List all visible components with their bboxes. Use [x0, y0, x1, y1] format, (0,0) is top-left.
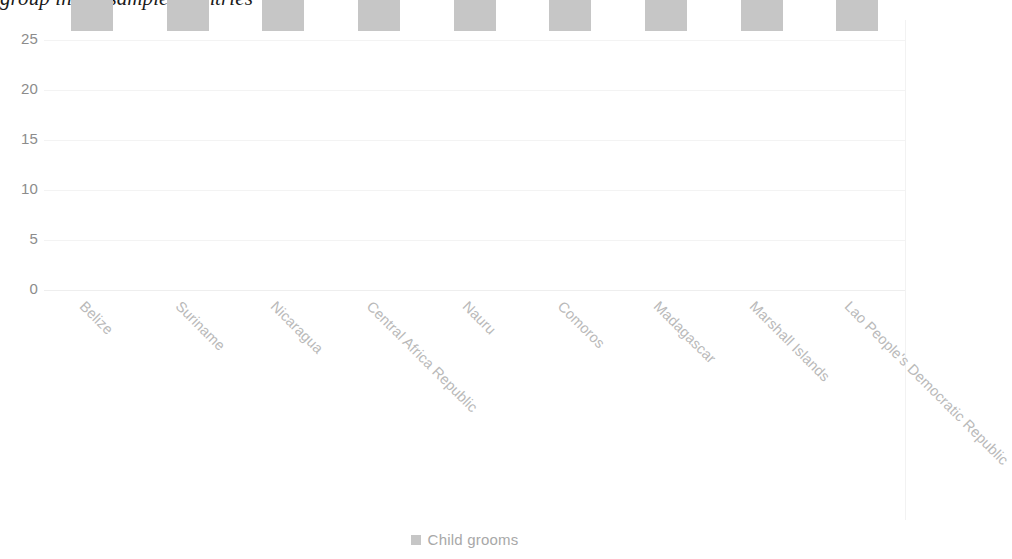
bar-series-child-grooms [0, 0, 929, 300]
bar [741, 0, 783, 31]
x-axis-tick-label: Lao People's Democratic Republic [842, 298, 1012, 468]
chart-legend: Child grooms [0, 527, 929, 551]
legend-swatch-icon [411, 535, 421, 545]
bar [167, 0, 209, 31]
bar [549, 0, 591, 31]
x-axis-tick-label: Suriname [172, 298, 228, 354]
x-axis-tick-label: Nauru [459, 298, 499, 338]
x-axis-tick-label: Marshall Islands [746, 298, 833, 385]
legend-label: Child grooms [428, 531, 519, 548]
bar [71, 0, 113, 31]
bar [358, 0, 400, 31]
x-axis-tick-label: Comoros [555, 298, 608, 351]
bar [262, 0, 304, 31]
bar [645, 0, 687, 31]
x-axis-tick-label: Central Africa Republic [364, 298, 481, 415]
x-axis-tick-label: Madagascar [651, 298, 719, 366]
bar [454, 0, 496, 31]
x-axis-tick-label: Nicaragua [268, 298, 327, 357]
x-axis: BelizeSurinameNicaraguaCentral Africa Re… [0, 292, 929, 517]
bar [836, 0, 878, 31]
x-axis-tick-label: Belize [77, 298, 117, 338]
